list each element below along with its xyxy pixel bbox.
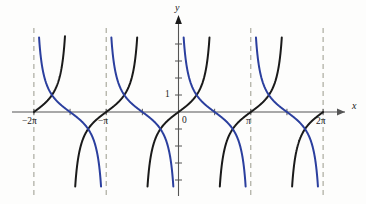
y-axis-label: y: [175, 3, 179, 13]
x-tick-label-neg-pi: −π: [98, 117, 108, 127]
curve-path: [34, 36, 65, 112]
x-tick-label-2pi: 2π: [316, 117, 326, 127]
y-axis-arrow: [175, 15, 182, 24]
x-tick-label-pi: π: [246, 117, 251, 127]
plot-canvas: [0, 0, 366, 204]
y-tick-label-1: 1: [165, 90, 170, 100]
origin-tick-label: 0: [182, 116, 187, 126]
x-axis-label: x: [352, 101, 356, 111]
x-axis-arrow: [337, 109, 345, 116]
graph-figure: y x 0 1 −2π −π π 2π: [0, 0, 366, 204]
x-tick-label-neg-2pi: −2π: [22, 117, 37, 127]
